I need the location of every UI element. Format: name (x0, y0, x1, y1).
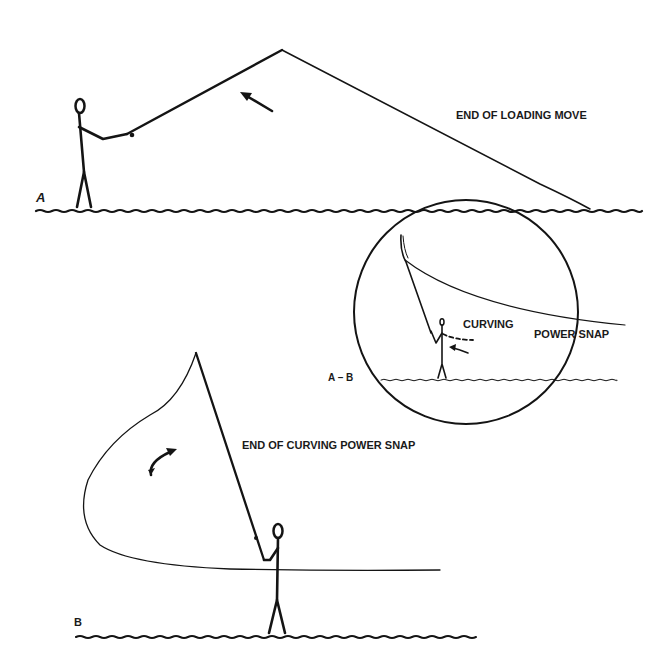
arm (264, 548, 278, 560)
inset-circle (354, 200, 578, 424)
arrow-icon-left (449, 344, 468, 353)
curved-arrow-icon-up-right (148, 448, 177, 475)
inset-motion-dash (443, 334, 473, 340)
reel-b (254, 536, 258, 540)
inset-water-line (381, 379, 617, 381)
arm (79, 127, 127, 139)
inset-figure (431, 319, 446, 378)
water-line-b (76, 636, 476, 638)
fly-line-a (282, 50, 590, 209)
fly-line-loop-b (84, 353, 440, 570)
casting-diagram: A END OF LOADING MOVE A – B CURVING POWE… (0, 0, 661, 671)
arrow-icon-up-left (240, 92, 272, 111)
panel-b: B END OF CURVING POWER SNAP (74, 353, 476, 638)
inset-fly-line (405, 260, 625, 325)
body (79, 113, 84, 172)
rod-b (196, 353, 264, 560)
head (274, 524, 283, 538)
rod-a (127, 50, 282, 134)
head (76, 99, 85, 113)
legs (77, 172, 91, 207)
panel-b-caption: END OF CURVING POWER SNAP (242, 439, 415, 451)
water-line-a (36, 210, 642, 212)
panel-b-label: B (74, 616, 82, 628)
inset-label: A – B (328, 372, 353, 383)
inset-caption-power-snap: POWER SNAP (534, 328, 609, 340)
panel-a-label: A (35, 190, 45, 205)
caster-figure-a (76, 99, 128, 207)
inset-a-b: A – B CURVING POWER SNAP (328, 200, 625, 424)
panel-a: A END OF LOADING MOVE (35, 50, 642, 212)
panel-a-caption: END OF LOADING MOVE (456, 109, 587, 121)
inset-caption-curving: CURVING (463, 318, 514, 330)
reel-a (130, 133, 135, 138)
legs (269, 600, 285, 633)
caster-figure-b (264, 524, 285, 633)
